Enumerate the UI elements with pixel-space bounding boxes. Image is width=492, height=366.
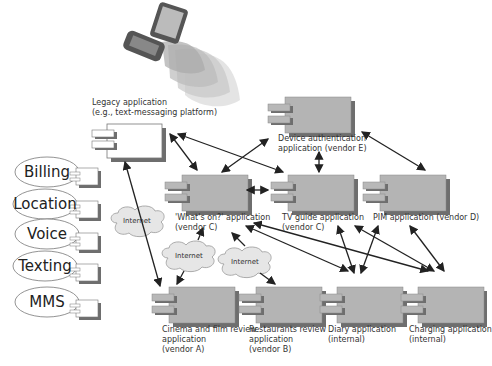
charging-component[interactable] [401,287,487,327]
tv-guide-label-line2: (vendor C) [282,223,324,233]
whats-on-label-line2: (vendor C) [175,223,217,233]
restaurants-component[interactable] [239,287,326,327]
internet-cloud-label-1: Internet [123,216,151,226]
whats-on-component[interactable] [165,175,252,215]
arrow-pim-charging [410,226,444,271]
internet-cloud-label-3: Internet [231,257,259,267]
arrow-cloud3-whatson [232,233,245,246]
charging-label-line2: (internal) [409,335,446,345]
restaurants-label-line2: application [249,335,293,345]
pim-component[interactable] [363,175,450,215]
tv-guide-component[interactable] [271,175,358,215]
legacy-label-line2: (e.g., text-messaging platform) [92,108,217,118]
service-label-location: Location [13,195,77,213]
service-label-mms: MMS [15,293,79,311]
cinema-label-line3: (vendor A) [162,345,204,355]
internet-cloud-label-2: Internet [175,251,203,261]
arrow-cloud2-cinema [177,271,184,284]
arrow-pim-deviceauth [362,132,425,170]
whats-on-label-line1: 'What's on?' application [175,213,270,223]
arrow-cloud3-restaurants [260,273,275,284]
arrow-whatson-deviceauth [222,139,268,172]
diary-label-line1: Diary application [328,325,396,335]
tv-guide-label-line1: TV guide application [282,213,364,223]
service-label-texting: Texting [13,257,77,275]
arrow-tvguide-charging [355,226,434,271]
restaurants-label-line1: Restaurants review [249,325,326,335]
cinema-component[interactable] [152,287,239,327]
service-label-voice: Voice [15,225,79,243]
service-label-billing: Billing [15,163,79,181]
pim-label-line1: PIM application (vendor D) [373,213,479,223]
mobile-device-icon [122,1,240,106]
arrow-pim-diary [361,226,378,273]
diary-component[interactable] [320,287,407,327]
legacy-label-line1: Legacy application [92,98,167,108]
cinema-label-line1: Cinema and film review [162,325,257,335]
charging-label-line1: Charging application [409,325,492,335]
arrow-whatson-charging [254,223,428,271]
diary-label-line2: (internal) [328,335,365,345]
legacy-application-component[interactable] [92,124,166,162]
device-auth-component[interactable] [268,97,355,137]
restaurants-label-line3: (vendor B) [249,345,291,355]
device-auth-label-line1: Device authentication [278,134,366,144]
device-auth-label-line2: application (vendor E) [278,144,367,154]
cinema-label-line2: application [162,335,206,345]
